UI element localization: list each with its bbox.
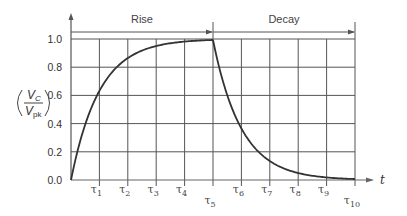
x-axis-arrow-icon xyxy=(366,178,374,183)
y-tick-label: 0.8 xyxy=(47,61,62,73)
x-tick-label: τ1 xyxy=(91,183,102,198)
phase-label-rise: Rise xyxy=(131,13,153,25)
decay-curve xyxy=(213,40,355,179)
phase-arrow-icon xyxy=(206,30,213,35)
x-tick-labels: τ1τ2τ3τ4τ5τ6τ7τ8τ9τ10 xyxy=(91,183,360,209)
rc-charge-discharge-chart: RiseDecay 0.00.20.40.60.81.0 τ1τ2τ3τ4τ5τ… xyxy=(0,0,407,216)
x-tick-label: τ7 xyxy=(261,183,272,198)
y-tick-label: 1.0 xyxy=(47,33,62,45)
phase-label-decay: Decay xyxy=(268,13,300,25)
x-tick-label: τ6 xyxy=(233,183,244,198)
y-tick-label: 0.2 xyxy=(47,146,62,158)
x-tick-label: τ10 xyxy=(344,194,360,209)
x-tick-label: τ8 xyxy=(290,183,301,198)
x-tick-label: τ3 xyxy=(148,183,159,198)
ylabel-denominator: Vpk xyxy=(25,104,42,119)
grid-lines xyxy=(71,22,355,186)
ylabel-numerator: VC xyxy=(27,88,41,103)
x-tick-label: τ5 xyxy=(204,194,215,209)
y-tick-label: 0.0 xyxy=(47,174,62,186)
x-tick-label: τ2 xyxy=(119,183,130,198)
x-axis-label: t xyxy=(380,173,385,187)
axes xyxy=(69,13,375,183)
y-axis-label: VCVpk xyxy=(18,88,50,119)
y-axis-arrow-icon xyxy=(69,13,74,20)
y-tick-labels: 0.00.20.40.60.81.0 xyxy=(47,33,62,186)
x-tick-label: τ9 xyxy=(318,183,329,198)
left-paren xyxy=(18,90,23,116)
phase-arrow-icon xyxy=(348,30,355,35)
y-tick-label: 0.4 xyxy=(47,118,62,130)
rise-curve xyxy=(71,40,213,180)
x-tick-label: τ4 xyxy=(176,183,187,198)
